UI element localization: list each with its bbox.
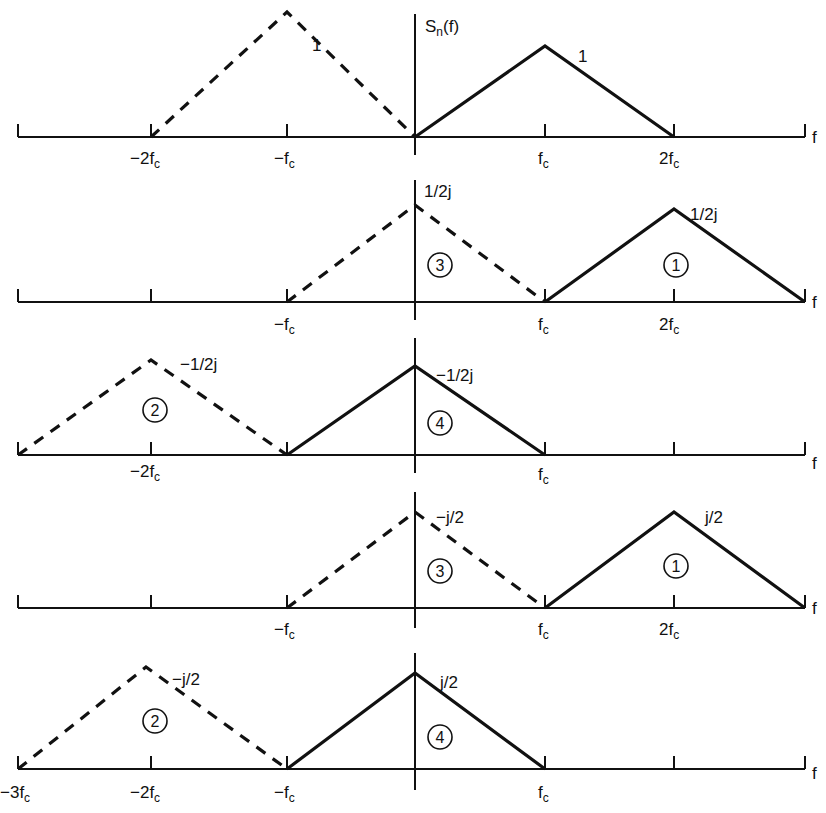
panel-2: 1/2j 1/2j 3 1 f −fc fc 2fc — [18, 180, 817, 337]
dashed-triangle — [151, 12, 415, 137]
panel-5: −j/2 j/2 2 4 f −3fc −2fc −fc fc — [0, 653, 817, 805]
tick-label: 2fc — [659, 620, 679, 642]
peak-label: 1 — [578, 47, 587, 66]
tick-label: fc — [538, 315, 549, 337]
panel-3: −1/2j −1/2j 2 4 f −2fc fc — [18, 338, 817, 487]
tick-label: −2fc — [130, 149, 160, 171]
tick-label: fc — [538, 783, 549, 805]
tick-label: 2fc — [659, 149, 679, 171]
tick-label: fc — [538, 620, 549, 642]
tick-label: −fc — [274, 315, 295, 337]
svg-text:4: 4 — [436, 415, 445, 432]
tick-label: 2fc — [659, 315, 679, 337]
tick-label: −2fc — [130, 462, 160, 484]
panel-1: Sn(f) 1 1 f −2fc −fc fc 2fc — [18, 12, 817, 171]
tick-label: −fc — [274, 783, 295, 805]
solid-triangle — [415, 46, 674, 137]
tick-label: −2fc — [130, 783, 160, 805]
svg-text:3: 3 — [436, 257, 445, 274]
x-axis-label: f — [812, 599, 817, 618]
svg-text:2: 2 — [151, 713, 160, 730]
svg-text:4: 4 — [436, 729, 445, 746]
tick-label: fc — [538, 465, 549, 487]
peak-label: −j/2 — [172, 670, 200, 689]
spectrum-diagram: Sn(f) 1 1 f −2fc −fc fc 2fc 1/2j 1/2j 3 … — [0, 0, 826, 813]
y-axis-label: Sn(f) — [425, 17, 459, 39]
peak-label: −j/2 — [436, 508, 464, 527]
x-axis-label: f — [812, 454, 817, 473]
tick-label: −fc — [274, 620, 295, 642]
peak-label: j/2 — [704, 508, 723, 527]
tick-label: −fc — [274, 149, 295, 171]
svg-text:1: 1 — [672, 558, 681, 575]
peak-label: 1/2j — [424, 182, 451, 201]
svg-text:3: 3 — [436, 563, 445, 580]
peak-label: 1 — [312, 36, 321, 55]
x-axis-label: f — [812, 764, 817, 783]
svg-text:2: 2 — [151, 402, 160, 419]
peak-label: −1/2j — [180, 355, 217, 374]
x-axis-label: f — [812, 128, 817, 147]
tick-label: fc — [538, 149, 549, 171]
peak-label: 1/2j — [690, 205, 717, 224]
x-axis-label: f — [812, 293, 817, 312]
tick-label: −3fc — [0, 783, 30, 805]
solid-triangle — [545, 209, 805, 302]
peak-label: j/2 — [439, 673, 458, 692]
panel-4: −j/2 j/2 3 1 f −fc fc 2fc — [18, 492, 817, 642]
svg-text:1: 1 — [672, 257, 681, 274]
peak-label: −1/2j — [436, 366, 473, 385]
